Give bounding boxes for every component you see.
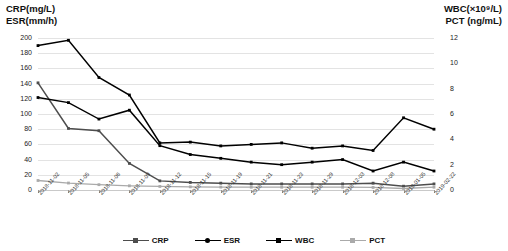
y-tick-left: 100 — [8, 110, 32, 117]
data-point-wbc — [311, 161, 314, 164]
data-point-esr — [341, 145, 344, 148]
data-point-esr — [219, 145, 222, 148]
y-tick-right: 6 — [450, 110, 474, 117]
data-point-wbc — [98, 118, 101, 121]
data-point-crp — [37, 81, 40, 84]
data-point-crp — [372, 182, 375, 185]
data-point-wbc — [250, 161, 253, 164]
data-point-crp — [189, 181, 192, 184]
data-point-crp — [158, 179, 161, 182]
y-tick-left: 120 — [8, 95, 32, 102]
right-axis-title: WBC(×10⁹/L) PCT (ng/mL) — [444, 3, 502, 26]
left-axis-title: CRP(mg/L) ESR(mm/h) — [6, 3, 57, 26]
y-tick-left: 180 — [8, 49, 32, 56]
data-point-pct — [37, 179, 40, 182]
y-tick-left: 80 — [8, 125, 32, 132]
y-tick-left: 60 — [8, 140, 32, 147]
legend-label: ESR — [224, 236, 240, 245]
data-point-esr — [311, 147, 314, 150]
y-tick-right: 10 — [450, 59, 474, 66]
data-point-crp — [280, 183, 283, 186]
data-point-crp — [433, 183, 436, 186]
data-point-wbc — [341, 158, 344, 161]
data-point-crp — [250, 183, 253, 186]
legend-swatch-icon — [340, 236, 366, 244]
legend-label: CRP — [152, 236, 169, 245]
x-tick-label: 2019-02-22 — [433, 171, 457, 196]
series-line-wbc — [38, 98, 434, 171]
y-tick-left: 40 — [8, 156, 32, 163]
y-tick-left: 200 — [8, 34, 32, 41]
data-point-wbc — [158, 144, 161, 147]
legend-label: PCT — [369, 236, 385, 245]
data-point-wbc — [372, 170, 375, 173]
data-point-wbc — [219, 157, 222, 160]
data-point-esr — [67, 39, 70, 42]
data-point-esr — [37, 44, 40, 47]
data-point-esr — [372, 149, 375, 152]
data-point-wbc — [280, 163, 283, 166]
data-point-esr — [189, 141, 192, 144]
data-point-wbc — [189, 153, 192, 156]
y-tick-left: 160 — [8, 64, 32, 71]
plot-area — [38, 38, 434, 190]
series-lines — [38, 38, 434, 190]
y-tick-left: 140 — [8, 80, 32, 87]
data-point-crp — [311, 183, 314, 186]
chart-legend: CRPESRWBCPCT — [0, 232, 508, 248]
data-point-wbc — [67, 101, 70, 104]
data-point-wbc — [433, 170, 436, 173]
data-point-esr — [433, 128, 436, 131]
series-line-esr — [38, 40, 434, 150]
y-tick-right: 2 — [450, 161, 474, 168]
data-point-pct — [158, 185, 161, 188]
data-point-crp — [128, 162, 131, 165]
x-axis-labels: 2018-11-022018-11-052018-11-062018-11-09… — [0, 192, 508, 232]
y-tick-right: 4 — [450, 135, 474, 142]
legend-item-pct[interactable]: PCT — [340, 236, 385, 245]
legend-item-wbc[interactable]: WBC — [266, 236, 314, 245]
data-point-crp — [98, 129, 101, 132]
y-tick-left: 20 — [8, 171, 32, 178]
data-point-wbc — [128, 109, 131, 112]
data-point-pct — [67, 182, 70, 185]
legend-swatch-icon — [266, 236, 292, 244]
data-point-esr — [98, 76, 101, 79]
data-point-esr — [128, 94, 131, 97]
data-point-wbc — [37, 96, 40, 99]
y-tick-right: 8 — [450, 85, 474, 92]
data-point-esr — [402, 116, 405, 119]
legend-swatch-icon — [123, 236, 149, 244]
legend-label: WBC — [295, 236, 314, 245]
data-point-crp — [67, 127, 70, 130]
legend-item-esr[interactable]: ESR — [195, 236, 240, 245]
data-point-crp — [219, 182, 222, 185]
legend-item-crp[interactable]: CRP — [123, 236, 169, 245]
data-point-esr — [280, 141, 283, 144]
data-point-pct — [98, 183, 101, 186]
chart-container: CRP(mg/L) ESR(mm/h) WBC(×10⁹/L) PCT (ng/… — [0, 0, 508, 251]
legend-swatch-icon — [195, 236, 221, 244]
data-point-crp — [341, 183, 344, 186]
data-point-wbc — [402, 161, 405, 164]
data-point-pct — [128, 184, 131, 187]
data-point-esr — [250, 143, 253, 146]
y-tick-right: 12 — [450, 34, 474, 41]
